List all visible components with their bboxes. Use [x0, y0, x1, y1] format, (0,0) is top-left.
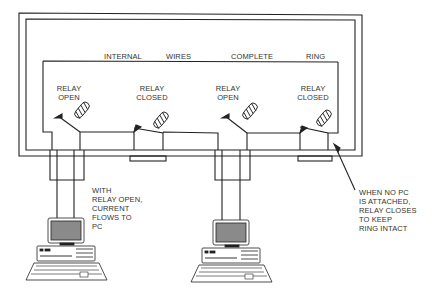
annotation-right-line: RELAY CLOSES: [359, 206, 417, 215]
relay-4-line1: RELAY: [296, 84, 330, 93]
label-wires: WIRES: [166, 52, 191, 61]
relay-1-line1: RELAY: [56, 84, 82, 93]
relay-3-contact: [222, 114, 229, 118]
annotation-left-line: FLOWS TO: [92, 213, 142, 222]
relay-1-line2: OPEN: [56, 93, 82, 102]
relay-4-label: RELAY CLOSED: [296, 84, 330, 102]
label-internal: INTERNAL: [104, 52, 142, 61]
annotation-right-line: WHEN NO PC: [359, 188, 417, 197]
relay-3-line2: OPEN: [215, 93, 241, 102]
relay-3-label: RELAY OPEN: [215, 84, 241, 102]
annotation-no-pc: WHEN NO PC IS ATTACHED, RELAY CLOSES TO …: [359, 188, 417, 233]
annotation-right-line: TO KEEP: [359, 215, 417, 224]
internal-wire-path: [43, 61, 338, 150]
relay-2-line1: RELAY: [135, 84, 169, 93]
annotation-right-line: IS ATTACHED,: [359, 197, 417, 206]
annotation-right-line: RING INTACT: [359, 224, 417, 233]
connector-tab-2: [298, 156, 332, 161]
label-complete: COMPLETE: [231, 52, 273, 61]
annotation-relay-open: WITH RELAY OPEN, CURRENT FLOWS TO PC: [92, 186, 142, 231]
pc-1-cable: [50, 150, 84, 220]
annotation-left-line: WITH: [92, 186, 142, 195]
relay-2-line2: CLOSED: [135, 93, 169, 102]
relay-coils: [73, 101, 333, 130]
annotation-left-line: PC: [92, 222, 142, 231]
relay-3-line1: RELAY: [215, 84, 241, 93]
annotation-left-line: RELAY OPEN,: [92, 195, 142, 204]
annotation-pointer: [336, 148, 355, 190]
annotation-left-line: CURRENT: [92, 204, 142, 213]
relay-2-label: RELAY CLOSED: [135, 84, 169, 102]
connector-tab-1: [130, 156, 166, 161]
relay-1-label: RELAY OPEN: [56, 84, 82, 102]
pc-2-icon: [191, 220, 272, 282]
ring-diagram: [0, 0, 440, 299]
label-ring: RING: [306, 52, 325, 61]
pc-2-cable: [215, 150, 250, 222]
relay-4-line2: CLOSED: [296, 93, 330, 102]
relay-1-contact: [55, 114, 62, 118]
